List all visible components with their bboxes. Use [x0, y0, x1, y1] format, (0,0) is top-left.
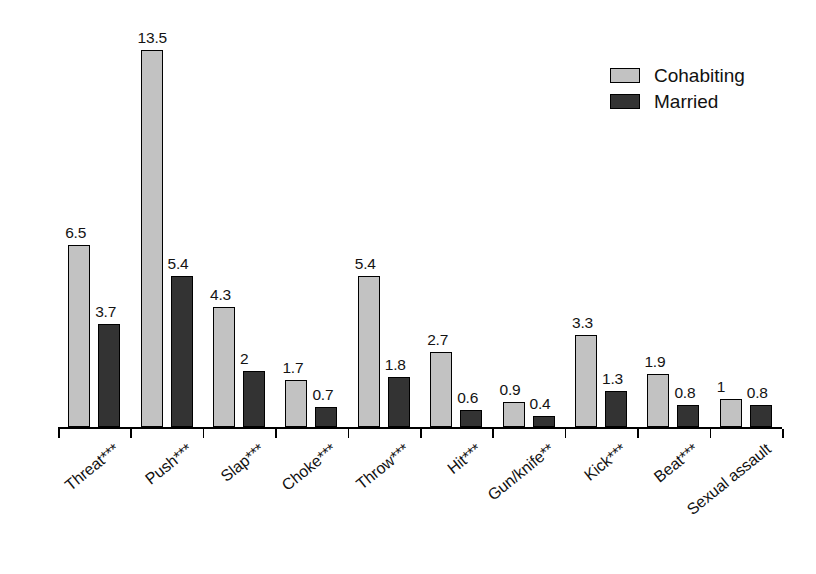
bar-value-label: 3.3	[572, 315, 593, 331]
legend-swatch-cohabiting	[610, 68, 640, 83]
bar-married	[243, 371, 265, 427]
x-axis-category-label: Beat***	[652, 441, 702, 485]
bar-cohabiting	[575, 335, 597, 427]
bar-value-label: 5.4	[168, 256, 189, 272]
bar-value-label: 1.8	[385, 357, 406, 373]
bar-cohabiting	[720, 399, 742, 427]
x-axis-tick	[58, 429, 60, 438]
legend-label-married: Married	[654, 92, 718, 111]
bar-value-label: 5.4	[355, 256, 376, 272]
x-axis-tick	[710, 429, 712, 438]
bar-value-label: 0.7	[312, 387, 333, 403]
bar-cohabiting	[68, 245, 90, 427]
x-axis-category-label: Hit***	[445, 441, 484, 477]
x-axis-tick	[348, 429, 350, 438]
bar-value-label: 4.3	[210, 287, 231, 303]
bar-cohabiting	[430, 352, 452, 427]
bar-married	[98, 324, 120, 427]
bar-cohabiting	[647, 374, 669, 427]
bar-value-label: 1.7	[282, 360, 303, 376]
bar-value-label: 0.9	[500, 382, 521, 398]
bar-value-label: 0.8	[747, 385, 768, 401]
x-axis-category-label: Gun/knife**	[485, 441, 557, 504]
legend-item-married: Married	[610, 88, 745, 114]
bar-married	[460, 410, 482, 427]
bar-value-label: 1.9	[644, 354, 665, 370]
bar-married	[750, 405, 772, 427]
legend-label-cohabiting: Cohabiting	[654, 66, 745, 85]
x-axis-category-label: Push***	[142, 441, 194, 488]
x-axis-category-label: Slap***	[218, 441, 267, 485]
bar-chart: 6.53.7Threat***13.55.4Push***4.32Slap***…	[0, 0, 816, 574]
legend-swatch-married	[610, 94, 640, 109]
bar-married	[388, 377, 410, 427]
bar-cohabiting	[503, 402, 525, 427]
bar-married	[605, 391, 627, 427]
x-axis-category-label: Threat***	[62, 441, 122, 494]
x-axis-tick	[637, 429, 639, 438]
bar-married	[315, 407, 337, 427]
x-axis-line	[58, 427, 782, 429]
bar-value-label: 2.7	[427, 332, 448, 348]
x-axis-tick	[203, 429, 205, 438]
bar-value-label: 1	[717, 379, 725, 395]
bar-cohabiting	[285, 380, 307, 427]
bar-value-label: 0.8	[674, 385, 695, 401]
bar-cohabiting	[141, 50, 163, 427]
x-axis-tick	[492, 429, 494, 438]
x-axis-tick	[275, 429, 277, 438]
x-axis-tick	[565, 429, 567, 438]
x-axis-category-label: Throw***	[353, 441, 412, 493]
bar-married	[171, 276, 193, 427]
bar-value-label: 0.4	[530, 396, 551, 412]
bar-married	[533, 416, 555, 427]
bar-cohabiting	[213, 307, 235, 427]
legend-item-cohabiting: Cohabiting	[610, 62, 745, 88]
x-axis-category-label: Kick***	[582, 441, 630, 484]
x-axis-tick	[420, 429, 422, 438]
bar-value-label: 1.3	[602, 371, 623, 387]
bar-value-label: 2	[240, 351, 248, 367]
bar-value-label: 13.5	[138, 30, 167, 46]
x-axis-tick	[782, 429, 784, 438]
bar-value-label: 3.7	[95, 304, 116, 320]
bar-cohabiting	[358, 276, 380, 427]
chart-legend: Cohabiting Married	[610, 62, 745, 114]
x-axis-category-label: Choke***	[280, 441, 340, 494]
bar-married	[677, 405, 699, 427]
bar-value-label: 6.5	[65, 225, 86, 241]
x-axis-tick	[130, 429, 132, 438]
bar-value-label: 0.6	[457, 390, 478, 406]
